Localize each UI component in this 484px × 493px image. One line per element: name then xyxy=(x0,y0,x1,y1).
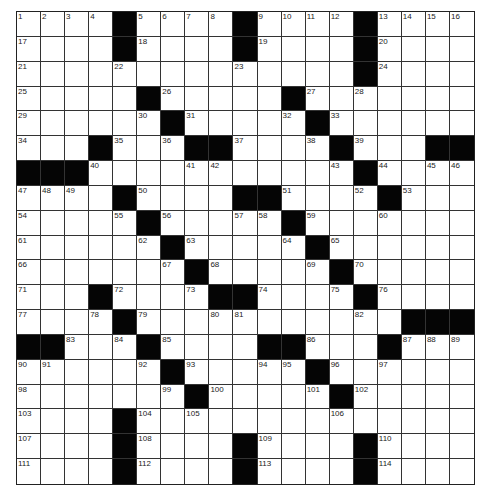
grid-cell[interactable] xyxy=(161,161,185,186)
grid-cell[interactable] xyxy=(161,459,185,484)
grid-cell[interactable]: 38 xyxy=(306,136,330,161)
grid-cell[interactable] xyxy=(89,409,113,434)
grid-cell[interactable] xyxy=(306,186,330,211)
grid-cell[interactable]: 4 xyxy=(89,12,113,37)
grid-cell[interactable]: 100 xyxy=(209,385,233,410)
grid-cell[interactable]: 90 xyxy=(17,360,41,385)
grid-cell[interactable]: 50 xyxy=(137,186,161,211)
grid-cell[interactable] xyxy=(137,260,161,285)
grid-cell[interactable] xyxy=(65,111,89,136)
grid-cell[interactable] xyxy=(258,260,282,285)
grid-cell[interactable] xyxy=(282,136,306,161)
grid-cell[interactable]: 51 xyxy=(282,186,306,211)
grid-cell[interactable] xyxy=(233,360,257,385)
grid-cell[interactable] xyxy=(89,37,113,62)
grid-cell[interactable] xyxy=(41,459,65,484)
grid-cell[interactable]: 61 xyxy=(17,236,41,261)
grid-cell[interactable]: 106 xyxy=(330,409,354,434)
grid-cell[interactable] xyxy=(65,434,89,459)
grid-cell[interactable] xyxy=(137,161,161,186)
grid-cell[interactable] xyxy=(330,211,354,236)
grid-cell[interactable] xyxy=(306,459,330,484)
grid-cell[interactable]: 62 xyxy=(137,236,161,261)
grid-cell[interactable]: 39 xyxy=(354,136,378,161)
grid-cell[interactable]: 32 xyxy=(282,111,306,136)
grid-cell[interactable] xyxy=(113,87,137,112)
grid-cell[interactable]: 25 xyxy=(17,87,41,112)
grid-cell[interactable] xyxy=(185,459,209,484)
grid-cell[interactable] xyxy=(450,434,474,459)
grid-cell[interactable] xyxy=(354,335,378,360)
grid-cell[interactable] xyxy=(306,62,330,87)
grid-cell[interactable]: 109 xyxy=(258,434,282,459)
grid-cell[interactable] xyxy=(161,409,185,434)
grid-cell[interactable]: 3 xyxy=(65,12,89,37)
grid-cell[interactable] xyxy=(185,186,209,211)
grid-cell[interactable] xyxy=(378,111,402,136)
grid-cell[interactable] xyxy=(65,385,89,410)
grid-cell[interactable]: 46 xyxy=(450,161,474,186)
grid-cell[interactable] xyxy=(306,434,330,459)
grid-cell[interactable] xyxy=(402,285,426,310)
grid-cell[interactable] xyxy=(450,211,474,236)
grid-cell[interactable] xyxy=(89,335,113,360)
grid-cell[interactable] xyxy=(330,459,354,484)
grid-cell[interactable]: 49 xyxy=(65,186,89,211)
grid-cell[interactable]: 78 xyxy=(89,310,113,335)
grid-cell[interactable]: 110 xyxy=(378,434,402,459)
grid-cell[interactable]: 34 xyxy=(17,136,41,161)
grid-cell[interactable] xyxy=(113,360,137,385)
grid-cell[interactable]: 112 xyxy=(137,459,161,484)
grid-cell[interactable]: 41 xyxy=(185,161,209,186)
grid-cell[interactable]: 43 xyxy=(330,161,354,186)
grid-cell[interactable] xyxy=(209,360,233,385)
grid-cell[interactable]: 64 xyxy=(282,236,306,261)
grid-cell[interactable] xyxy=(282,459,306,484)
grid-cell[interactable] xyxy=(282,37,306,62)
grid-cell[interactable]: 103 xyxy=(17,409,41,434)
grid-cell[interactable] xyxy=(402,37,426,62)
grid-cell[interactable] xyxy=(306,409,330,434)
grid-cell[interactable] xyxy=(426,211,450,236)
grid-cell[interactable] xyxy=(65,360,89,385)
grid-cell[interactable] xyxy=(282,260,306,285)
grid-cell[interactable] xyxy=(330,310,354,335)
grid-cell[interactable] xyxy=(41,111,65,136)
grid-cell[interactable]: 10 xyxy=(282,12,306,37)
grid-cell[interactable]: 19 xyxy=(258,37,282,62)
grid-cell[interactable] xyxy=(185,335,209,360)
grid-cell[interactable] xyxy=(426,37,450,62)
grid-cell[interactable]: 24 xyxy=(378,62,402,87)
grid-cell[interactable]: 6 xyxy=(161,12,185,37)
grid-cell[interactable]: 111 xyxy=(17,459,41,484)
grid-cell[interactable]: 66 xyxy=(17,260,41,285)
grid-cell[interactable] xyxy=(89,62,113,87)
grid-cell[interactable] xyxy=(258,161,282,186)
grid-cell[interactable]: 16 xyxy=(450,12,474,37)
grid-cell[interactable]: 92 xyxy=(137,360,161,385)
grid-cell[interactable]: 2 xyxy=(41,12,65,37)
grid-cell[interactable]: 84 xyxy=(113,335,137,360)
grid-cell[interactable] xyxy=(209,37,233,62)
grid-cell[interactable] xyxy=(41,260,65,285)
grid-cell[interactable] xyxy=(161,62,185,87)
grid-cell[interactable] xyxy=(65,37,89,62)
grid-cell[interactable] xyxy=(258,310,282,335)
grid-cell[interactable] xyxy=(113,236,137,261)
grid-cell[interactable]: 55 xyxy=(113,211,137,236)
grid-cell[interactable]: 102 xyxy=(354,385,378,410)
grid-cell[interactable] xyxy=(161,285,185,310)
grid-cell[interactable] xyxy=(89,186,113,211)
grid-cell[interactable] xyxy=(258,62,282,87)
grid-cell[interactable] xyxy=(402,87,426,112)
grid-cell[interactable] xyxy=(450,385,474,410)
grid-cell[interactable] xyxy=(426,260,450,285)
grid-cell[interactable]: 86 xyxy=(306,335,330,360)
grid-cell[interactable] xyxy=(89,211,113,236)
grid-cell[interactable] xyxy=(233,409,257,434)
grid-cell[interactable] xyxy=(450,37,474,62)
grid-cell[interactable] xyxy=(41,236,65,261)
grid-cell[interactable] xyxy=(426,409,450,434)
grid-cell[interactable] xyxy=(65,211,89,236)
grid-cell[interactable]: 30 xyxy=(137,111,161,136)
